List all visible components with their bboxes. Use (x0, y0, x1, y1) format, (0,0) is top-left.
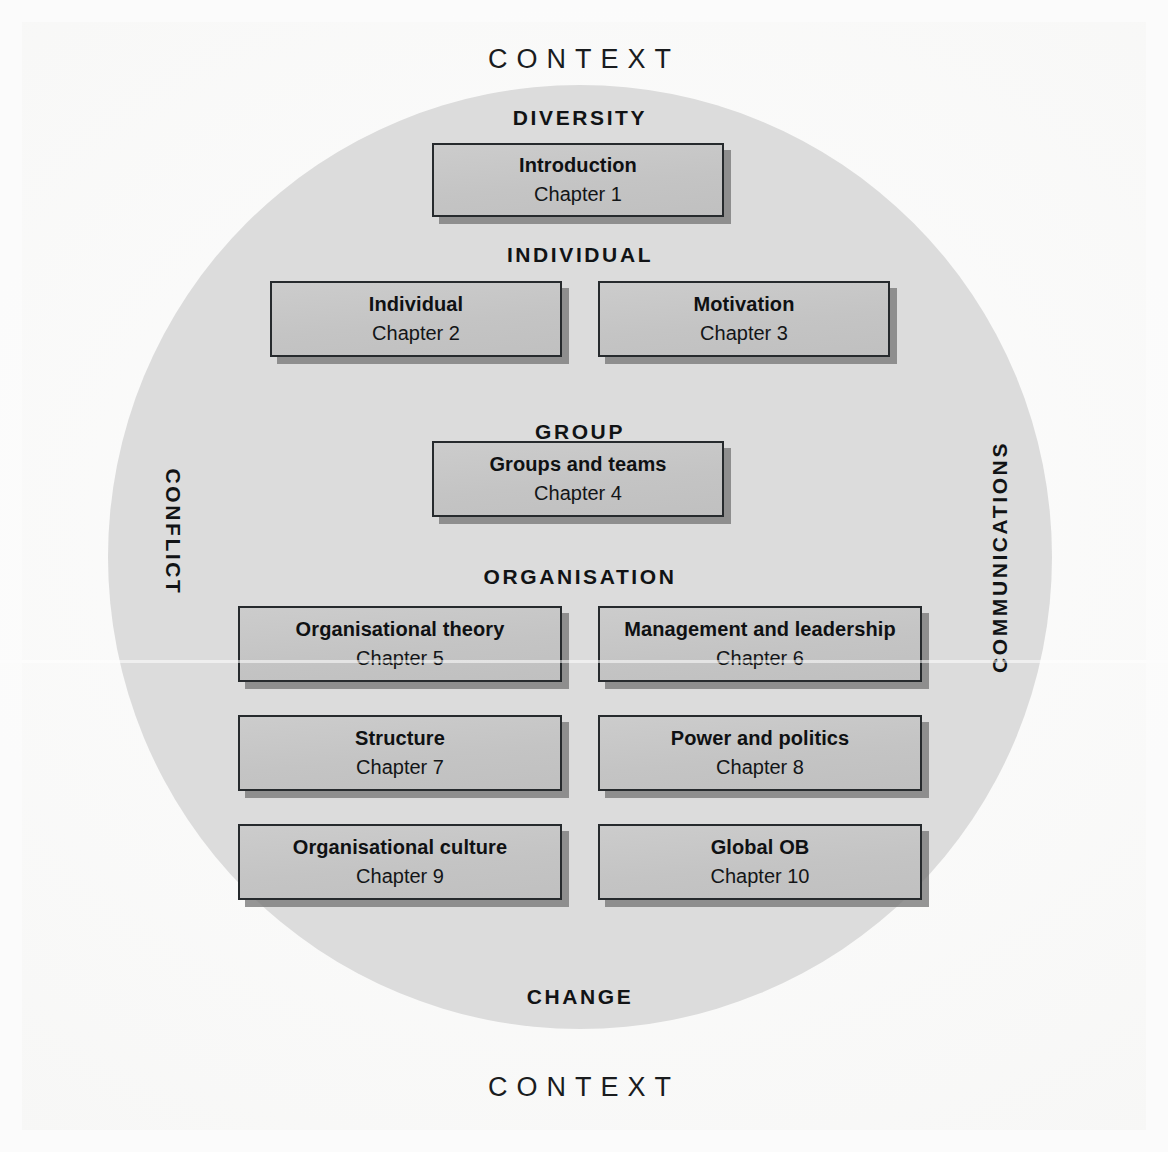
chapter-box-subtitle: Chapter 1 (534, 182, 622, 208)
chapter-box-subtitle: Chapter 7 (356, 755, 444, 781)
chapter-box-title: Groups and teams (489, 452, 666, 478)
chapter-box-subtitle: Chapter 6 (716, 646, 804, 672)
chapter-box-groups-and-teams[interactable]: Groups and teams Chapter 4 (432, 441, 724, 517)
chapter-box-subtitle: Chapter 4 (534, 481, 622, 507)
chapter-box-title: Motivation (694, 292, 795, 318)
band-label-change: CHANGE (0, 985, 1160, 1009)
band-label-diversity: DIVERSITY (0, 106, 1160, 130)
chapter-box-subtitle: Chapter 3 (700, 321, 788, 347)
side-label-communications: COMMUNICATIONS (988, 437, 1012, 677)
chapter-box-individual[interactable]: Individual Chapter 2 (270, 281, 562, 357)
context-label-bottom: CONTEXT (0, 1072, 1168, 1103)
diagram-page: CONTEXT CONTEXT DIVERSITY INDIVIDUAL GRO… (0, 0, 1168, 1152)
context-label-top: CONTEXT (0, 44, 1168, 75)
chapter-box-title: Management and leadership (624, 617, 895, 643)
chapter-box-motivation[interactable]: Motivation Chapter 3 (598, 281, 890, 357)
chapter-box-subtitle: Chapter 9 (356, 864, 444, 890)
chapter-box-introduction[interactable]: Introduction Chapter 1 (432, 143, 724, 217)
chapter-box-subtitle: Chapter 8 (716, 755, 804, 781)
chapter-box-title: Organisational culture (293, 835, 507, 861)
chapter-box-title: Introduction (519, 153, 637, 179)
chapter-box-title: Power and politics (671, 726, 850, 752)
side-label-conflict: CONFLICT (161, 452, 185, 612)
chapter-box-title: Individual (369, 292, 463, 318)
chapter-box-structure[interactable]: Structure Chapter 7 (238, 715, 562, 791)
chapter-box-organisational-culture[interactable]: Organisational culture Chapter 9 (238, 824, 562, 900)
chapter-box-title: Organisational theory (296, 617, 505, 643)
chapter-box-subtitle: Chapter 2 (372, 321, 460, 347)
chapter-box-title: Global OB (711, 835, 810, 861)
chapter-box-subtitle: Chapter 10 (711, 864, 810, 890)
chapter-box-title: Structure (355, 726, 445, 752)
band-label-individual: INDIVIDUAL (0, 243, 1160, 267)
chapter-box-global-ob[interactable]: Global OB Chapter 10 (598, 824, 922, 900)
chapter-box-power-and-politics[interactable]: Power and politics Chapter 8 (598, 715, 922, 791)
chapter-box-subtitle: Chapter 5 (356, 646, 444, 672)
chapter-box-organisational-theory[interactable]: Organisational theory Chapter 5 (238, 606, 562, 682)
chapter-box-management-and-leadership[interactable]: Management and leadership Chapter 6 (598, 606, 922, 682)
